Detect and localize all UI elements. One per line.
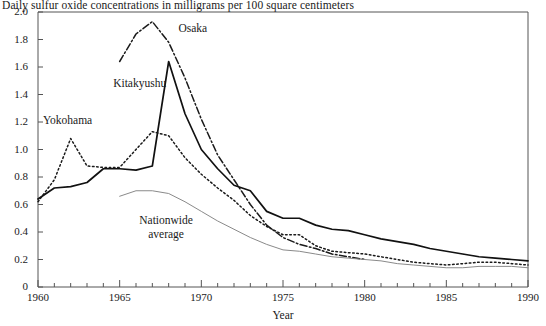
y-tick-label: 2.0 (2, 5, 28, 17)
y-tick-label: 0.2 (2, 253, 28, 265)
series-label-nationwide-average: Nationwideaverage (139, 214, 193, 240)
series-label-yokohama: Yokohama (43, 114, 92, 127)
series-label-osaka: Osaka (178, 22, 207, 35)
series-line-yokohama (38, 132, 528, 265)
series-label-kitakyushu: Kitakyushu (113, 77, 166, 90)
chart-container: Daily sulfur oxide concentrations in mil… (0, 0, 546, 326)
x-tick-label: 1970 (180, 291, 222, 303)
x-tick-label: 1985 (425, 291, 467, 303)
y-tick-label: 1.6 (2, 60, 28, 72)
y-tick-label: 1.4 (2, 88, 28, 100)
x-tick-label: 1975 (262, 291, 304, 303)
y-tick-label: 1.0 (2, 143, 28, 155)
y-tick-label: 1.2 (2, 115, 28, 127)
y-tick-label: 0.4 (2, 225, 28, 237)
y-tick-label: 0.8 (2, 170, 28, 182)
y-tick-label: 1.8 (2, 33, 28, 45)
x-tick-label: 1965 (99, 291, 141, 303)
x-tick-label: 1980 (344, 291, 386, 303)
series-line-kitakyushu (38, 62, 528, 261)
x-tick-label: 1960 (17, 291, 59, 303)
chart-plot-area (0, 0, 546, 326)
y-tick-label: 0.6 (2, 198, 28, 210)
x-axis-title: Year (253, 309, 313, 321)
x-tick-label: 1990 (507, 291, 546, 303)
